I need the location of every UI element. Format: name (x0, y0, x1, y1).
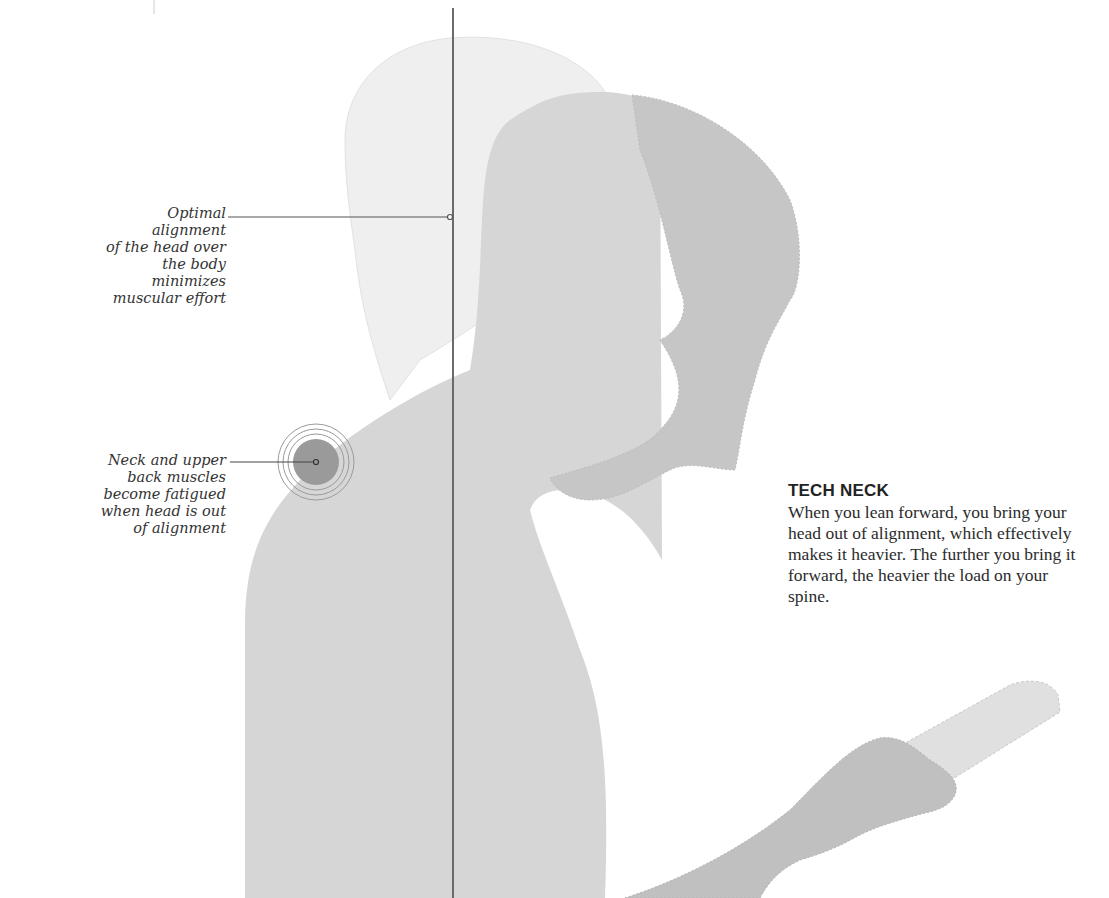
callout-alignment-line: muscular effort (96, 290, 226, 307)
callout-neck-line: of alignment (96, 520, 226, 537)
tech-neck-title: TECH NECK (788, 481, 1088, 501)
callout-point-neck (314, 460, 319, 465)
callout-neck-line: when head is out (96, 503, 226, 520)
callout-alignment-line: the body minimizes (96, 256, 226, 290)
callout-point-alignment (448, 215, 453, 220)
tech-neck-description: TECH NECK When you lean forward, you bri… (788, 481, 1088, 607)
callout-neck: Neck and upper back muscles become fatig… (96, 452, 226, 537)
callout-neck-line: become fatigued (96, 486, 226, 503)
tech-neck-illustration (0, 0, 1109, 898)
tech-neck-body: When you lean forward, you bring your he… (788, 502, 1088, 607)
callout-neck-line: back muscles (96, 469, 226, 486)
callout-alignment: Optimal alignment of the head over the b… (96, 205, 226, 307)
arm-hand-silhouette (625, 738, 956, 898)
callout-alignment-line: of the head over (96, 239, 226, 256)
callout-alignment-line: Optimal alignment (96, 205, 226, 239)
callout-neck-line: Neck and upper (96, 452, 226, 469)
